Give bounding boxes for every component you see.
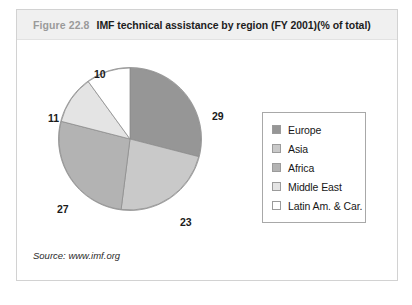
slice-label-asia: 23 <box>180 216 192 228</box>
legend-label-middle-east: Middle East <box>288 181 342 193</box>
pie-chart: 29 23 27 11 10 EuropeAsiaAfricaMiddle Ea… <box>17 40 399 245</box>
figure-number: Figure 22.8 <box>33 19 90 31</box>
chart-legend: EuropeAsiaAfricaMiddle EastLatin Am. & C… <box>262 112 366 223</box>
figure-card: Figure 22.8 IMF technical assistance by … <box>16 9 398 281</box>
legend-item-europe[interactable]: Europe <box>272 120 357 139</box>
legend-swatch-africa <box>272 163 281 172</box>
legend-label-latin-am-car: Latin Am. & Car. <box>288 200 362 212</box>
legend-item-latin-am-car[interactable]: Latin Am. & Car. <box>272 196 357 215</box>
slice-label-africa: 27 <box>57 203 69 215</box>
legend-label-europe: Europe <box>288 124 321 136</box>
legend-swatch-asia <box>272 144 281 153</box>
pie-slice-group <box>59 68 201 210</box>
legend-item-asia[interactable]: Asia <box>272 139 357 158</box>
legend-swatch-middle-east <box>272 182 281 191</box>
legend-item-africa[interactable]: Africa <box>272 158 357 177</box>
pie-svg <box>55 64 205 214</box>
legend-swatch-latin-am-car <box>272 201 281 210</box>
source-note: Source: www.imf.org <box>33 250 120 261</box>
legend-item-middle-east[interactable]: Middle East <box>272 177 357 196</box>
legend-swatch-europe <box>272 125 281 134</box>
figure-title: IMF technical assistance by region (FY 2… <box>97 19 371 31</box>
slice-label-middle-east: 11 <box>48 112 59 124</box>
legend-label-asia: Asia <box>288 143 308 155</box>
figure-body: 29 23 27 11 10 EuropeAsiaAfricaMiddle Ea… <box>17 40 397 281</box>
pie-graphic <box>55 64 205 214</box>
legend-label-africa: Africa <box>288 162 314 174</box>
slice-label-latin-am-car: 10 <box>94 68 106 80</box>
figure-header: Figure 22.8 IMF technical assistance by … <box>17 10 397 40</box>
slice-label-europe: 29 <box>212 110 224 122</box>
